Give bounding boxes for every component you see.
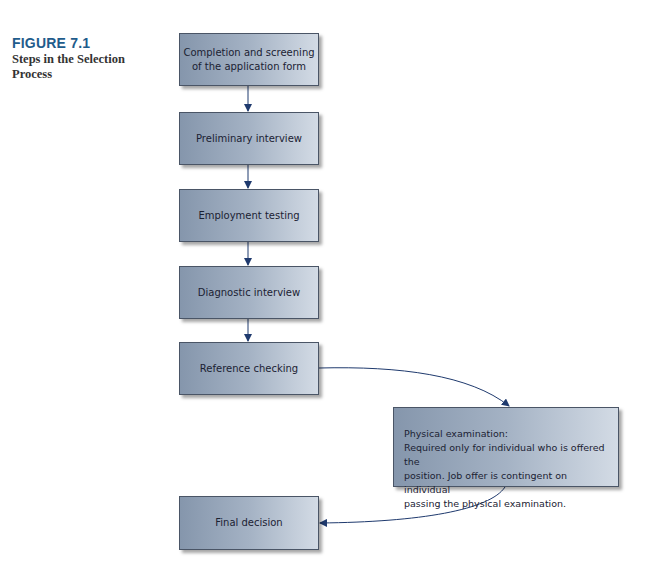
step-reference-checking: Reference checking (179, 342, 319, 395)
step-final-decision: Final decision (179, 496, 319, 550)
step-heading: Physical examination: (404, 427, 608, 441)
step-label: Preliminary interview (196, 132, 302, 146)
step-employment-testing: Employment testing (179, 189, 319, 242)
step-application-form: Completion and screening of the applicat… (179, 33, 319, 86)
step-diagnostic-interview: Diagnostic interview (179, 266, 319, 319)
step-label: Diagnostic interview (198, 286, 300, 300)
step-text-line: Completion and screening (183, 46, 314, 60)
step-preliminary-interview: Preliminary interview (179, 112, 319, 165)
step-text-line: position. Job offer is contingent on ind… (404, 469, 608, 497)
step-text-line: Required only for individual who is offe… (404, 441, 608, 469)
step-physical-examination: Physical examination: Required only for … (393, 407, 619, 487)
step-text-line: of the application form (183, 60, 314, 74)
step-label: Employment testing (198, 209, 299, 223)
step-label: Reference checking (200, 362, 298, 376)
arrow-5-6 (319, 368, 509, 406)
step-label: Final decision (215, 516, 282, 530)
step-text-line: passing the physical examination. (404, 497, 608, 511)
